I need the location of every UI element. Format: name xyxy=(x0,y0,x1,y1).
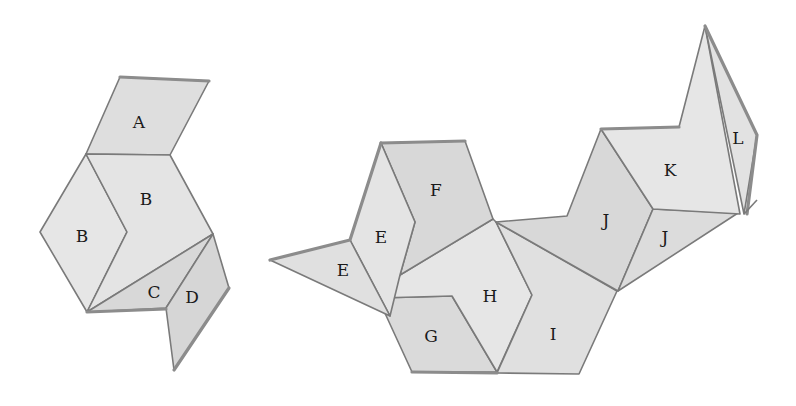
label-G: G xyxy=(424,326,438,346)
left-figure: A B B C D xyxy=(40,77,229,370)
right-figure: E E F G H I J J K L xyxy=(270,26,757,374)
label-E-lower: E xyxy=(337,260,349,280)
label-J-lower: J xyxy=(660,227,669,247)
label-K: K xyxy=(664,160,677,180)
label-A: A xyxy=(132,112,146,132)
label-E-upper: E xyxy=(375,227,387,247)
raised-edge-G-bottom xyxy=(412,372,497,373)
label-F: F xyxy=(430,180,442,200)
label-L: L xyxy=(732,128,743,148)
label-H: H xyxy=(483,286,498,306)
raised-edge-F-top xyxy=(381,141,465,143)
face-A xyxy=(86,77,209,155)
label-B-right: B xyxy=(140,189,153,209)
folding-net-diagram: A B B C D E E F G xyxy=(0,0,796,406)
label-D: D xyxy=(185,287,199,307)
label-C: C xyxy=(147,282,160,302)
label-J-upper: J xyxy=(601,210,610,230)
label-I: I xyxy=(550,324,557,344)
raised-edge-K-top xyxy=(601,127,679,129)
label-B-left: B xyxy=(76,226,89,246)
